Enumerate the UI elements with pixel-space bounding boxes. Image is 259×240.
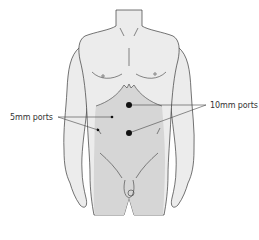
- label-5mm-ports: 5mm ports: [10, 113, 53, 122]
- port-5mm-upper: [111, 116, 114, 119]
- port-10mm-upper: [126, 102, 132, 108]
- label-10mm-ports: 10mm ports: [210, 101, 258, 110]
- port-5mm-lower: [97, 129, 100, 132]
- port-10mm-lower: [126, 130, 132, 136]
